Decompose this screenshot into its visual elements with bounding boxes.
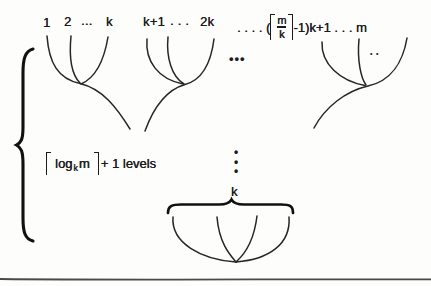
ceiling-right-icon [94, 152, 99, 175]
bottom-fan-outer-left [173, 217, 236, 262]
bottom-k-label: k [231, 185, 238, 198]
group3-prefix: . . . . ( [237, 20, 270, 35]
group3-label: . . . . ( m k -1)k+1 . . . m [237, 13, 367, 41]
fan-1-left-and-tail [47, 36, 130, 129]
bottom-fan-inner-right [236, 216, 257, 262]
group2-label-end: 2k [200, 15, 214, 28]
vertical-ellipsis: • • • [234, 148, 238, 177]
group1-label-k: k [106, 15, 113, 28]
fan-1-right-curve [81, 37, 108, 84]
bottom-fan-inner-left [217, 217, 236, 262]
levels-m: m [79, 156, 90, 171]
fan-2 [145, 37, 214, 131]
fraction-denominator: k [279, 29, 285, 39]
levels-log-subscript: k [73, 164, 78, 173]
levels-label: log k m + 1 levels [46, 151, 156, 175]
fan-1 [47, 36, 130, 129]
fan-3-middle-curve [358, 39, 366, 85]
bottom-fan [173, 216, 289, 262]
group1-label-2: 2 [64, 15, 71, 28]
fraction-numerator: m [277, 15, 286, 25]
fan-3-right-and-tail [314, 38, 407, 128]
bottom-fan-outer-right [236, 217, 289, 262]
levels-log: log [55, 156, 72, 171]
fan-3 [314, 38, 407, 128]
levels-suffix: + 1 levels [101, 156, 156, 171]
fan-1-middle-curve [70, 36, 80, 83]
fan-2-right-and-tail [145, 39, 214, 131]
ceiling-left-icon [270, 14, 275, 40]
bottom-rule [0, 279, 431, 280]
group2-label-start: k+1 [143, 15, 165, 28]
group1-label-1: 1 [43, 16, 50, 29]
mid-ellipsis: ••• [229, 51, 246, 66]
fan-2-left-curve [147, 39, 183, 84]
left-curly-brace [17, 49, 34, 241]
ceiling-left-icon [46, 152, 51, 175]
over-brace [168, 200, 293, 214]
fan3-inner-dots: •• [370, 50, 382, 57]
group3-suffix: -1)k+1 . . . m [293, 20, 366, 35]
group2-ellipsis: . . . [170, 14, 189, 27]
figure-canvas: 1 2 ... k k+1 . . . 2k . . . . ( m k -1)… [0, 0, 431, 286]
group1-ellipsis: ... [81, 14, 92, 27]
fan-2-middle-curve [168, 37, 184, 84]
m-over-k-fraction: m k [276, 15, 287, 38]
diagram-linework [0, 0, 431, 286]
